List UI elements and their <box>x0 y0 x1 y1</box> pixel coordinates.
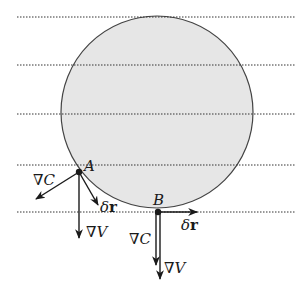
point-a-dot <box>76 169 82 175</box>
delta-r-label-b: δr <box>181 216 199 234</box>
grad-c-label-b: ∇C <box>129 230 151 248</box>
point-b-dot <box>155 209 161 215</box>
point-a-label: A <box>82 157 95 175</box>
delta-r-prefix-b: δ <box>181 216 190 234</box>
constraint-circle <box>61 16 253 208</box>
point-b-label: B <box>152 191 164 209</box>
delta-r-prefix-a: δ <box>100 198 109 216</box>
delta-r-bold-a: r <box>109 198 118 216</box>
delta-r-label-a: δr <box>100 198 118 216</box>
grad-v-label-b: ∇V <box>164 259 187 277</box>
grad-v-label-a: ∇V <box>86 223 109 241</box>
constraint-diagram: A ∇C δr ∇V B δr ∇C ∇V <box>0 0 307 295</box>
delta-r-bold-b: r <box>190 216 199 234</box>
grad-c-label-a: ∇C <box>33 171 55 189</box>
